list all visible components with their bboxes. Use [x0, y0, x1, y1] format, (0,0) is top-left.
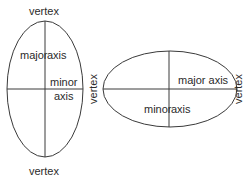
vertical-top-vertex-label: vertex — [29, 5, 59, 17]
vertical-minor-axis-label-line2: axis — [54, 90, 74, 102]
horizontal-right-vertex-label: vertex — [232, 74, 244, 104]
horizontal-left-vertex-label: vertex — [87, 74, 99, 104]
vertical-major-axis-label-part1: major — [20, 49, 48, 61]
horizontal-major-axis-label: major axis — [178, 74, 228, 86]
horizontal-minor-axis-label-part2: axis — [171, 103, 191, 115]
ellipse-diagram — [0, 0, 249, 183]
vertical-minor-axis-label-line1: minor — [50, 76, 78, 88]
vertical-major-axis-label-part2: axis — [47, 49, 67, 61]
horizontal-minor-axis-label-part1: minor — [144, 103, 172, 115]
vertical-bottom-vertex-label: vertex — [29, 165, 59, 177]
